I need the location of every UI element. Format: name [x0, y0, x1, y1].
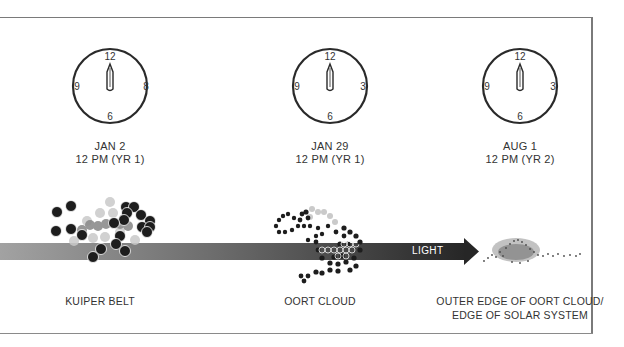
numeral-6: 6 — [327, 111, 333, 122]
clock-jan-29: 12 9 3 6 JAN 29 12 PM (YR 1) — [260, 38, 400, 166]
clock-caption: AUG 1 12 PM (YR 2) — [450, 140, 590, 166]
clock-time: 12 PM (YR 1) — [260, 153, 400, 166]
oort-cloud-label: OORT CLOUD — [260, 294, 380, 308]
clock-date: JAN 29 — [260, 140, 400, 153]
light-label: LIGHT — [412, 245, 443, 256]
outer-edge-label-line1: OUTER EDGE OF OORT CLOUD/ — [420, 294, 620, 308]
clock-caption: JAN 2 12 PM (YR 1) — [40, 140, 180, 166]
frame-top-border — [0, 17, 592, 18]
clock-face-icon: 12 9 3 6 — [470, 38, 570, 134]
clock-time: 12 PM (YR 1) — [40, 153, 180, 166]
outer-edge-label: OUTER EDGE OF OORT CLOUD/ EDGE OF SOLAR … — [420, 294, 620, 322]
numeral-6: 6 — [517, 111, 523, 122]
numeral-6: 6 — [107, 111, 113, 122]
clock-date: AUG 1 — [450, 140, 590, 153]
clock-face-icon: 12 9 8 6 — [60, 38, 160, 134]
numeral-12: 12 — [514, 51, 526, 62]
clock-date: JAN 2 — [40, 140, 180, 153]
clock-time: 12 PM (YR 2) — [450, 153, 590, 166]
numeral-3: 3 — [360, 81, 366, 92]
clock-aug-1: 12 9 3 6 AUG 1 12 PM (YR 2) — [450, 38, 590, 166]
numeral-9: 9 — [74, 81, 80, 92]
numeral-3: 8 — [143, 81, 149, 92]
clock-jan-2: 12 9 8 6 JAN 2 12 PM (YR 1) — [40, 38, 180, 166]
kuiper-belt-label: KUIPER BELT — [40, 294, 160, 308]
frame-bottom-border — [0, 333, 593, 334]
numeral-12: 12 — [104, 51, 116, 62]
outer-edge-particles-icon — [483, 238, 581, 264]
outer-edge-label-line2: EDGE OF SOLAR SYSTEM — [420, 308, 620, 322]
numeral-12: 12 — [324, 51, 336, 62]
numeral-3: 3 — [550, 81, 556, 92]
light-travel-diagram — [0, 180, 600, 290]
numeral-9: 9 — [484, 81, 490, 92]
clock-caption: JAN 29 12 PM (YR 1) — [260, 140, 400, 166]
clock-face-icon: 12 9 3 6 — [280, 38, 380, 134]
numeral-9: 9 — [294, 81, 300, 92]
